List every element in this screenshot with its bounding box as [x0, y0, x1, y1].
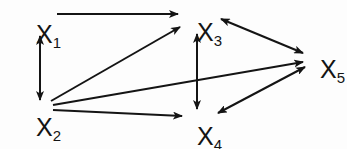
node-label-subscript: 5 — [337, 69, 345, 86]
node-label-x5: X5 — [320, 57, 345, 82]
node-label-x4: X4 — [197, 124, 222, 149]
node-label-base: X — [320, 55, 337, 83]
node-label-base: X — [36, 20, 53, 48]
edge-x2-x4 — [53, 110, 182, 116]
node-label-base: X — [197, 18, 214, 46]
node-label-base: X — [36, 113, 53, 141]
node-label-subscript: 3 — [214, 32, 222, 49]
node-label-x2: X2 — [36, 115, 61, 140]
diagram-canvas: X1 X2 X3 X4 X5 — [0, 0, 347, 149]
node-label-x1: X1 — [36, 22, 61, 47]
node-label-x3: X3 — [197, 20, 222, 45]
edge-layer — [40, 14, 305, 116]
node-label-subscript: 1 — [53, 34, 61, 51]
edge-x2-x5 — [53, 62, 303, 105]
edge-x3-x5 — [221, 19, 303, 53]
node-label-subscript: 4 — [214, 136, 222, 149]
node-label-subscript: 2 — [53, 127, 61, 144]
node-label-base: X — [197, 122, 214, 149]
edge-x2-x3 — [51, 27, 180, 101]
